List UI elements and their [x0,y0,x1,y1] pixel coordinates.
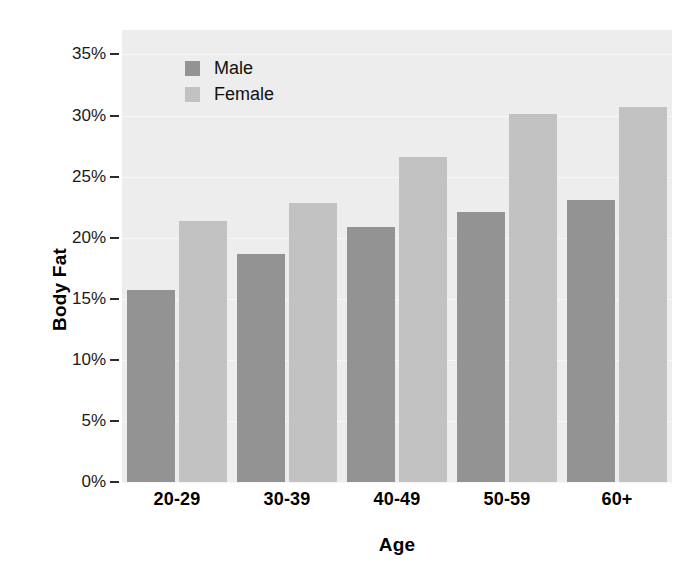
bar-male-50-59 [457,212,505,482]
y-axis-tick-label: 25% [44,167,106,187]
y-axis-tick-label: 15% [44,289,106,309]
bar-female-50-59 [509,114,557,482]
y-axis-tick-label: 30% [44,106,106,126]
bar-male-60+ [567,200,615,482]
y-axis-tick-mark [110,420,119,422]
legend-label: Male [214,59,253,77]
legend-label: Female [214,85,274,103]
x-axis-tick-label: 60+ [562,489,672,510]
bar-male-30-39 [237,254,285,482]
y-axis-tick-label: 35% [44,44,106,64]
bar-female-60+ [619,107,667,482]
y-axis-tick-label: 0% [44,472,106,492]
chart-legend: MaleFemale [185,55,274,107]
x-axis-tick-label: 20-29 [122,489,232,510]
bar-male-20-29 [127,290,175,482]
y-axis-tick-label: 10% [44,350,106,370]
y-axis-tick-mark [110,298,119,300]
gridline [122,116,672,117]
y-axis-tick-mark [110,53,119,55]
y-axis-tick-mark [110,359,119,361]
gridline [122,177,672,178]
y-axis-tick-label: 5% [44,411,106,431]
bar-female-20-29 [179,221,227,482]
bar-male-40-49 [347,227,395,482]
legend-item-female: Female [185,81,274,107]
legend-swatch-icon [185,87,200,102]
y-axis-tick-mark [110,115,119,117]
x-axis-title: Age [122,534,672,556]
y-axis-tick-mark [110,481,119,483]
x-axis-tick-label: 40-49 [342,489,452,510]
y-axis-tick-label: 20% [44,228,106,248]
legend-swatch-icon [185,61,200,76]
x-axis-tick-label: 50-59 [452,489,562,510]
gridline [122,482,672,483]
bar-chart: Body Fat Age 0%5%10%15%20%25%30%35% 20-2… [0,0,694,579]
legend-item-male: Male [185,55,274,81]
bar-female-40-49 [399,157,447,482]
bar-female-30-39 [289,203,337,482]
y-axis-tick-mark [110,237,119,239]
x-axis-tick-label: 30-39 [232,489,342,510]
y-axis-tick-mark [110,176,119,178]
